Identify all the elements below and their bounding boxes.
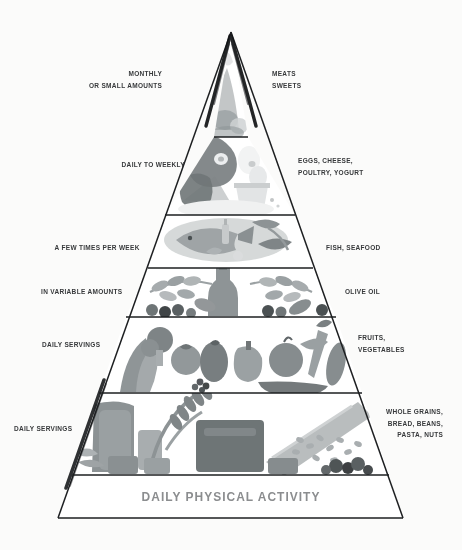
food-label-olive-oil: OLIVE OIL bbox=[345, 286, 380, 298]
frequency-line-1: MONTHLY bbox=[89, 68, 162, 80]
food-label-eggs-cheese-poultry-yogurt: EGGS, CHEESE, POULTRY, YOGURT bbox=[298, 155, 364, 178]
frequency-line-1: DAILY TO WEEKLY bbox=[122, 159, 185, 171]
food-line-2: VEGETABLES bbox=[358, 344, 405, 356]
frequency-label-fruits-vegetables: DAILY SERVINGS bbox=[42, 339, 100, 351]
food-line-2: BREAD, BEANS, bbox=[386, 418, 443, 430]
food-pyramid-illustration bbox=[0, 0, 462, 550]
frequency-label-whole-grains: DAILY SERVINGS bbox=[14, 423, 72, 435]
food-line-1: WHOLE GRAINS, bbox=[386, 406, 443, 418]
frequency-line-1: DAILY SERVINGS bbox=[42, 339, 100, 351]
food-label-whole-grains: WHOLE GRAINS, BREAD, BEANS, PASTA, NUTS bbox=[386, 406, 443, 441]
daily-physical-activity-caption: DAILY PHYSICAL ACTIVITY bbox=[18, 489, 443, 504]
food-label-fruits-vegetables: FRUITS, VEGETABLES bbox=[358, 332, 405, 355]
food-label-fish-seafood: FISH, SEAFOOD bbox=[326, 242, 381, 254]
food-line-2: POULTRY, YOGURT bbox=[298, 167, 364, 179]
food-line-3: PASTA, NUTS bbox=[386, 429, 443, 441]
food-line-1: FISH, SEAFOOD bbox=[326, 242, 381, 254]
frequency-line-2: OR SMALL AMOUNTS bbox=[89, 80, 162, 92]
food-line-1: EGGS, CHEESE, bbox=[298, 155, 364, 167]
frequency-label-fish-seafood: A FEW TIMES PER WEEK bbox=[55, 242, 140, 254]
frequency-label-meats-sweets: MONTHLY OR SMALL AMOUNTS bbox=[89, 68, 162, 91]
food-line-1: MEATS bbox=[272, 68, 301, 80]
frequency-line-1: IN VARIABLE AMOUNTS bbox=[41, 286, 122, 298]
frequency-line-1: DAILY SERVINGS bbox=[14, 423, 72, 435]
frequency-label-olive-oil: IN VARIABLE AMOUNTS bbox=[41, 286, 122, 298]
food-line-1: FRUITS, bbox=[358, 332, 405, 344]
food-line-1: OLIVE OIL bbox=[345, 286, 380, 298]
diagram-canvas: MONTHLY OR SMALL AMOUNTS DAILY TO WEEKLY… bbox=[0, 0, 462, 550]
food-line-2: SWEETS bbox=[272, 80, 301, 92]
frequency-line-1: A FEW TIMES PER WEEK bbox=[55, 242, 140, 254]
frequency-label-eggs-cheese: DAILY TO WEEKLY bbox=[122, 159, 185, 171]
food-label-meats-sweets: MEATS SWEETS bbox=[272, 68, 301, 91]
